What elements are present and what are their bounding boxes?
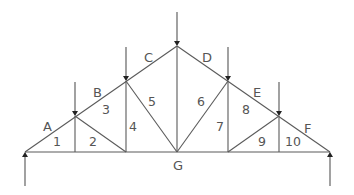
panel-label-1: 1 — [53, 134, 61, 149]
space-label-e: E — [253, 85, 261, 100]
panel-label-4: 4 — [129, 119, 137, 134]
panel-label-6: 6 — [197, 94, 205, 109]
space-label-a: A — [43, 119, 52, 134]
diagonal-member-4 — [228, 116, 279, 152]
space-label-d: D — [202, 50, 212, 65]
diagonal-member-3 — [177, 81, 228, 152]
space-label-c: C — [144, 50, 153, 65]
panel-label-3: 3 — [102, 102, 110, 117]
panel-label-2: 2 — [89, 134, 97, 149]
space-label-g: G — [173, 158, 183, 173]
arrow-down-icon — [174, 41, 180, 46]
arrow-up-icon — [22, 152, 28, 157]
truss-diagram: A B C D E F G 1 2 3 4 5 6 7 8 9 10 — [0, 0, 354, 195]
arrow-up-icon — [327, 152, 333, 157]
space-label-b: B — [93, 85, 102, 100]
space-label-f: F — [304, 121, 311, 136]
panel-label-10: 10 — [285, 134, 301, 149]
diagonal-member-1 — [75, 116, 126, 152]
panel-label-9: 9 — [258, 134, 266, 149]
panel-label-7: 7 — [216, 119, 224, 134]
diagonal-member-2 — [126, 81, 177, 152]
panel-label-5: 5 — [148, 94, 156, 109]
panel-label-8: 8 — [242, 102, 250, 117]
